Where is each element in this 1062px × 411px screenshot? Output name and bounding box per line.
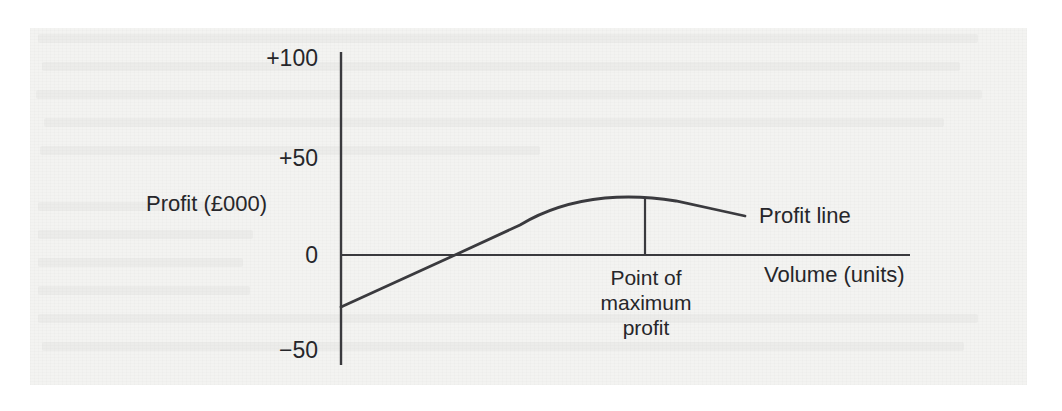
- y-tick-label-plus100: +100: [243, 45, 318, 72]
- y-tick-label-zero: 0: [243, 242, 318, 269]
- y-axis-title: Profit (£000): [146, 191, 267, 217]
- chart-figure: +100 +50 0 −50 Profit (£000) Volume (uni…: [0, 0, 1062, 411]
- max-profit-annotation-line-2: maximum: [560, 290, 732, 315]
- profit-line-label: Profit line: [759, 203, 851, 229]
- y-tick-label-plus50: +50: [243, 145, 318, 172]
- max-profit-annotation-line-1: Point of: [560, 265, 732, 290]
- y-tick-label-minus50: −50: [243, 337, 318, 364]
- max-profit-annotation-line-3: profit: [560, 315, 732, 340]
- max-profit-annotation: Point of maximum profit: [560, 265, 732, 340]
- x-axis-title: Volume (units): [764, 262, 905, 288]
